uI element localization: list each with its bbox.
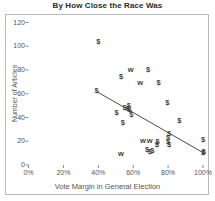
y-tick-label: 80 bbox=[3, 66, 25, 73]
x-tick-label: 40% bbox=[85, 169, 111, 176]
data-point-dollar: $ bbox=[118, 119, 127, 127]
y-tick-label: 60 bbox=[3, 90, 25, 97]
x-tick-label: 100% bbox=[190, 169, 215, 176]
x-tick-label: 20% bbox=[50, 169, 76, 176]
data-point-dollar: $ bbox=[112, 109, 121, 117]
y-tick-label: 100 bbox=[3, 42, 25, 49]
y-tick-label: 40 bbox=[3, 114, 25, 121]
data-point-dollar: $ bbox=[94, 38, 103, 46]
x-tick-label: 60% bbox=[120, 169, 146, 176]
y-tick-label: 20 bbox=[3, 137, 25, 144]
data-point-w: w bbox=[136, 79, 145, 87]
y-tick-label: 120 bbox=[3, 19, 25, 26]
chart-container: By How Close the Race Was Number of Arti… bbox=[0, 0, 215, 201]
data-point-dollar: $ bbox=[163, 99, 172, 107]
y-tick-label: 0 bbox=[3, 161, 25, 168]
x-tick-label: 0% bbox=[16, 169, 42, 176]
chart-title: By How Close the Race Was bbox=[0, 1, 215, 10]
data-point-dollar: $ bbox=[127, 111, 136, 119]
data-point-dollar: $ bbox=[92, 87, 101, 95]
data-point-w: w bbox=[116, 150, 125, 158]
x-tick-label: 80% bbox=[155, 169, 181, 176]
plot-frame bbox=[5, 14, 209, 195]
data-point-dollar: $ bbox=[175, 117, 184, 125]
data-point-dollar: $ bbox=[199, 136, 208, 144]
data-point-dollar: $ bbox=[154, 79, 163, 87]
x-axis-title: Vote Margin in General Election bbox=[0, 182, 215, 191]
data-point-dollar: $ bbox=[116, 73, 125, 81]
data-point-dollar: $ bbox=[164, 141, 173, 149]
data-point-w: w bbox=[126, 66, 135, 74]
data-point-dollar: $ bbox=[199, 149, 208, 157]
data-point-dollar: $ bbox=[144, 66, 153, 74]
data-point-dollar: $ bbox=[145, 148, 154, 156]
